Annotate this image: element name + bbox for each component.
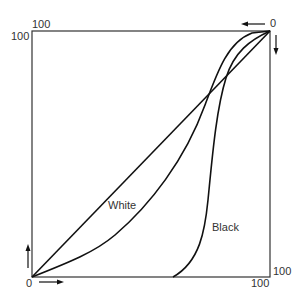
black-curve	[173, 31, 270, 277]
black-curve-label: Black	[212, 222, 239, 233]
left-arrow-head-icon	[241, 22, 248, 27]
right-bottom-label: 100	[273, 266, 291, 277]
white-curve-label: White	[108, 200, 136, 211]
bottom-right-label: 100	[251, 278, 269, 289]
down-arrow-head-icon	[274, 48, 279, 55]
top-right-label: 0	[270, 18, 276, 29]
bottom-left-label: 0	[26, 278, 32, 289]
right-arrow-head-icon	[57, 280, 64, 285]
left-top-label: 100	[11, 31, 29, 42]
up-arrow-head-icon	[26, 244, 31, 251]
top-left-label: 100	[32, 19, 50, 30]
diagonal-line	[32, 31, 270, 277]
chart-canvas	[0, 0, 305, 301]
